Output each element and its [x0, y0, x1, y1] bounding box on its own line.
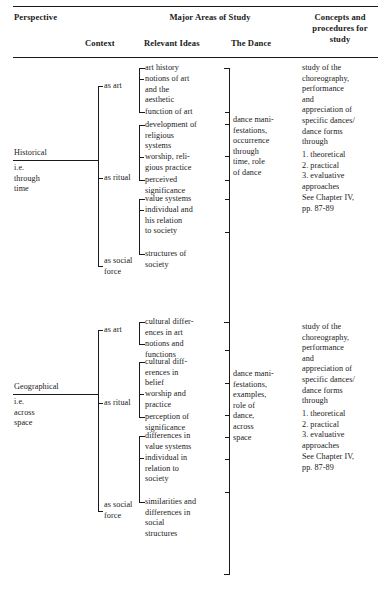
context-spine-historical — [98, 86, 99, 267]
column-header-perspective: Perspective — [14, 12, 104, 23]
dance-tick-historical-4 — [225, 180, 230, 181]
perspective-name-historical: Historical — [14, 148, 86, 159]
idea-geographical-social-1: differences in value systems — [145, 431, 225, 452]
concepts-geographical: study of the choreography, performance a… — [302, 322, 386, 407]
idea-historical-art-2: notions of art and the aesthetic — [145, 74, 223, 106]
dance-brace-geographical — [218, 322, 230, 575]
the-dance-historical: dance mani- festations, occurrence throu… — [233, 115, 299, 179]
perspective-sub-geographical: i.e. across space — [14, 397, 86, 429]
perspective-underline-geographical — [13, 394, 81, 395]
connector-geographical — [81, 394, 98, 395]
idea-historical-ritual-1: development of religious systems — [145, 120, 223, 152]
idea-historical-ritual-2: worship, reli- gious practice — [145, 152, 223, 173]
perspective-sub-historical: i.e. through time — [14, 163, 86, 195]
idea-geographical-social-3: similarities and differences in social s… — [145, 497, 225, 539]
dance-tick-geographical-2 — [225, 383, 230, 384]
dance-tick-historical-5 — [225, 199, 230, 200]
concepts-list-historical: 1. theoretical 2. practical 3. evaluativ… — [302, 150, 386, 192]
ideas-bracket-historical-as-art — [139, 68, 140, 113]
idea-historical-social-2: individual and his relation to society — [145, 205, 223, 237]
dance-tick-historical-2 — [225, 124, 230, 125]
ideas-bracket-geographical-as-art — [139, 322, 140, 345]
ideas-tick-historical-social-individual — [139, 210, 144, 211]
idea-historical-art-3: function of art — [145, 107, 223, 118]
ideas-tick-historical-ritual-worship — [139, 157, 144, 158]
dance-tick-geographical-5 — [225, 459, 230, 460]
header-bottom-rule — [13, 57, 378, 58]
context-tick-geographical-ritual — [98, 403, 103, 404]
idea-geographical-ritual-3: perception of significance — [145, 412, 225, 433]
header-top-rule — [13, 6, 378, 7]
column-header-relevant-ideas: Relevant Ideas — [144, 38, 234, 49]
column-header-the-dance: The Dance — [231, 38, 293, 49]
column-header-major-areas: Major Areas of Study — [130, 12, 290, 23]
the-dance-geographical: dance mani- festations, examples, role o… — [233, 369, 299, 443]
concepts-list-geographical: 1. theoretical 2. practical 3. evaluativ… — [302, 409, 386, 451]
ideas-tick-geographical-ritual-worship — [139, 394, 144, 395]
idea-geographical-ritual-2: worship and practice — [145, 389, 225, 410]
perspective-name-geographical: Geographical — [14, 382, 94, 393]
idea-historical-social-3: structures of society — [145, 249, 223, 270]
concepts-historical: study of the choreography, performance a… — [302, 63, 386, 148]
idea-historical-ritual-3: perceived significance — [145, 175, 223, 196]
ideas-bracket-historical-as-ritual — [139, 125, 140, 181]
dance-tick-geographical-3 — [225, 415, 230, 416]
dance-tick-geographical-4 — [225, 437, 230, 438]
idea-historical-social-1: value systems — [145, 194, 223, 205]
ideas-bracket-geographical-as-ritual — [139, 362, 140, 418]
dance-tick-geographical-1 — [225, 350, 230, 351]
column-header-context: Context — [85, 38, 145, 49]
table-figure: Perspective Major Areas of Study Concept… — [0, 0, 390, 597]
connector-historical — [81, 160, 98, 161]
dance-tick-historical-1 — [225, 112, 230, 113]
column-header-concepts: Concepts and procedures for study — [300, 12, 380, 45]
perspective-underline-historical — [13, 160, 81, 161]
idea-geographical-social-2: individual in relation to society — [145, 453, 225, 485]
dance-tick-historical-6 — [225, 232, 230, 233]
dance-tick-historical-3 — [225, 156, 230, 157]
concepts-ref-geographical: See Chapter IV, pp. 87-89 — [302, 452, 386, 473]
concepts-ref-historical: See Chapter IV, pp. 87-89 — [302, 193, 386, 214]
ideas-tick-historical-art-notions — [139, 79, 144, 80]
idea-geographical-ritual-1: cultural diff- erences in belief — [145, 357, 225, 389]
dance-brace-historical — [218, 68, 230, 323]
ideas-bracket-geographical-as-social-force — [139, 436, 140, 503]
dance-tick-geographical-6 — [225, 492, 230, 493]
ideas-bracket-historical-as-social-force — [139, 199, 140, 255]
idea-geographical-art-1: cultural differ- ences in art — [145, 317, 225, 338]
idea-historical-art-1: art history — [145, 63, 223, 74]
context-tick-historical-ritual — [98, 178, 103, 179]
ideas-tick-geographical-social-individual — [139, 458, 144, 459]
context-spine-geographical — [98, 330, 99, 512]
